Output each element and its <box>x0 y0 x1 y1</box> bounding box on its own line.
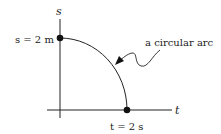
arrowhead-icon <box>115 56 124 65</box>
s-axis-label: s <box>56 5 62 18</box>
circular-arc <box>60 38 127 110</box>
s-intercept-label: s = 2 m <box>15 34 54 45</box>
t-axis-label: t <box>175 104 180 117</box>
wavy-arrow <box>118 50 160 66</box>
position-time-diagram: s t s = 2 m t = 2 s a circular arc <box>0 0 221 134</box>
arc-annotation-label: a circular arc <box>145 37 214 48</box>
t-intercept-label: t = 2 s <box>110 121 143 132</box>
s-intercept-dot <box>57 35 64 42</box>
t-intercept-dot <box>124 107 131 114</box>
